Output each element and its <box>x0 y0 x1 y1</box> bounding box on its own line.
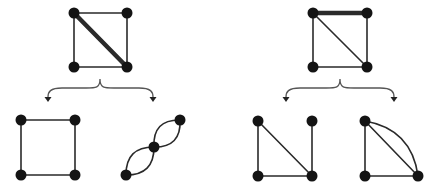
edge <box>365 121 418 176</box>
edge <box>154 120 180 147</box>
brace-curve <box>286 79 394 97</box>
vertex <box>16 170 27 181</box>
vertex <box>307 116 318 127</box>
vertex <box>69 8 80 19</box>
graph-right-contraction <box>360 116 424 182</box>
vertex <box>362 62 373 73</box>
vertex <box>253 116 264 127</box>
arrowhead-icon <box>150 97 157 102</box>
right-brace <box>283 79 398 102</box>
vertex <box>122 8 133 19</box>
graph-right-deletion <box>253 116 318 182</box>
highlighted-edge <box>74 13 127 67</box>
vertex <box>360 171 371 182</box>
vertex <box>413 171 424 182</box>
edge <box>126 147 154 175</box>
vertex <box>70 170 81 181</box>
left-brace <box>45 79 157 102</box>
arrowhead-icon <box>391 97 398 102</box>
arrowhead-icon <box>283 97 290 102</box>
vertex <box>70 115 81 126</box>
graph-left-contraction <box>121 115 186 181</box>
arrowhead-icon <box>45 97 52 102</box>
vertex <box>308 8 319 19</box>
vertex <box>253 171 264 182</box>
vertex <box>121 170 132 181</box>
vertex <box>308 62 319 73</box>
vertex <box>149 142 160 153</box>
graph-left-original <box>69 8 133 73</box>
edge <box>258 121 312 176</box>
edge <box>126 147 154 175</box>
vertex <box>362 8 373 19</box>
graphs-layer <box>16 8 424 182</box>
vertex <box>69 62 80 73</box>
deletion-contraction-diagram <box>0 0 436 192</box>
vertex <box>360 116 371 127</box>
vertex <box>307 171 318 182</box>
vertex <box>122 62 133 73</box>
brace-curve <box>48 79 153 97</box>
graph-right-original <box>308 8 373 73</box>
edge <box>154 120 180 147</box>
braces-layer <box>45 79 398 102</box>
graph-left-deletion <box>16 115 81 181</box>
edge <box>313 13 367 67</box>
vertex <box>16 115 27 126</box>
vertex <box>175 115 186 126</box>
